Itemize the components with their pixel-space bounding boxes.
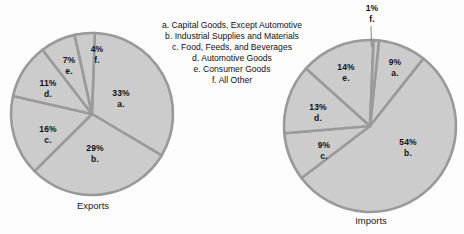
exports-label-e-pct: 7% [57,55,81,66]
exports-caption: Exports [62,200,124,211]
legend-item-e: e. Consumer Goods [144,64,320,75]
exports-label-d: 11% d. [33,78,63,100]
imports-label-f: 1% f. [359,3,385,25]
exports-label-b-key: b. [78,154,112,165]
exports-label-b: 29% b. [78,143,112,165]
legend-item-d: d. Automotive Goods [144,53,320,64]
imports-label-d-pct: 13% [303,102,333,113]
exports-label-b-pct: 29% [78,143,112,154]
imports-label-c: 9% c. [311,140,337,162]
exports-label-a-key: a. [104,99,138,110]
exports-label-e-key: e. [57,66,81,77]
imports-label-d-key: d. [303,113,333,124]
imports-all-other-leader-line [371,26,372,47]
exports-label-f-key: f. [85,55,109,66]
legend-item-b: b. Industrial Supplies and Materials [144,31,320,42]
imports-label-a: 9% a. [382,57,408,79]
legend-item-c: c. Food, Feeds, and Beverages [144,42,320,53]
imports-label-e-key: e. [331,73,361,84]
exports-label-c: 16% c. [33,124,63,146]
legend-item-f: f. All Other [144,75,320,86]
imports-label-b-pct: 54% [392,137,424,148]
imports-label-f-key: f. [359,14,385,25]
imports-label-c-pct: 9% [311,140,337,151]
imports-label-a-key: a. [382,68,408,79]
exports-label-d-pct: 11% [33,78,63,89]
imports-label-b-key: b. [392,148,424,159]
exports-label-c-key: c. [33,135,63,146]
exports-label-a: 33% a. [104,88,138,110]
imports-label-a-pct: 9% [382,57,408,68]
legend: a. Capital Goods, Except Automotive b. I… [144,20,320,87]
exports-label-a-pct: 33% [104,88,138,99]
exports-label-f: 4% f. [85,44,109,66]
pie-chart-figure: 33% a. 29% b. 16% c. 11% d. 7% e. 4% f. … [0,0,464,234]
exports-label-f-pct: 4% [85,44,109,55]
imports-label-d: 13% d. [303,102,333,124]
imports-label-b: 54% b. [392,137,424,159]
exports-label-e: 7% e. [57,55,81,77]
imports-caption: Imports [340,215,402,226]
exports-label-c-pct: 16% [33,124,63,135]
imports-label-e-pct: 14% [331,62,361,73]
imports-label-f-pct: 1% [359,3,385,14]
legend-item-a: a. Capital Goods, Except Automotive [144,20,320,31]
exports-label-d-key: d. [33,89,63,100]
imports-label-c-key: c. [311,151,337,162]
imports-label-e: 14% e. [331,62,361,84]
